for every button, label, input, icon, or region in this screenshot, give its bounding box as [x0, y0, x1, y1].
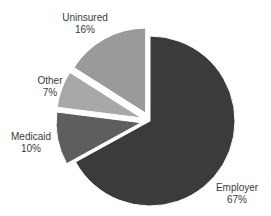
label-employer: Employer 67%	[212, 182, 262, 206]
label-other-name: Other	[30, 75, 70, 87]
label-uninsured-pct: 16%	[60, 24, 110, 36]
label-medicaid: Medicaid 10%	[6, 131, 56, 155]
label-medicaid-pct: 10%	[6, 143, 56, 155]
label-other-pct: 7%	[30, 87, 70, 99]
label-employer-pct: 67%	[212, 194, 262, 206]
label-employer-name: Employer	[212, 182, 262, 194]
label-other: Other 7%	[30, 75, 70, 99]
label-medicaid-name: Medicaid	[6, 131, 56, 143]
label-uninsured-name: Uninsured	[60, 12, 110, 24]
label-uninsured: Uninsured 16%	[60, 12, 110, 36]
